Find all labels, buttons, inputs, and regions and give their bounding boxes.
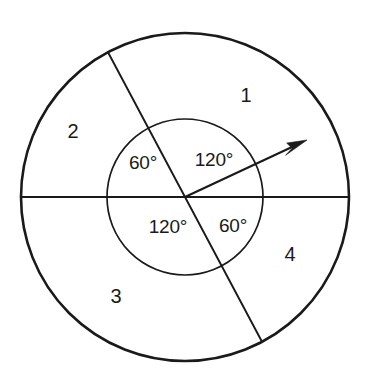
region-label-4: 4 bbox=[284, 243, 295, 265]
angle-label-upper-left: 60° bbox=[129, 152, 157, 173]
angle-label-upper-right: 120° bbox=[195, 149, 234, 170]
circle-angle-diagram: 60° 120° 120° 60° 1 2 3 4 bbox=[0, 0, 371, 386]
region-label-3: 3 bbox=[110, 285, 121, 307]
figure-canvas: 60° 120° 120° 60° 1 2 3 4 bbox=[0, 0, 371, 386]
angle-label-lower-left: 120° bbox=[149, 216, 188, 237]
region-label-1: 1 bbox=[240, 84, 251, 106]
angle-label-lower-right: 60° bbox=[219, 215, 247, 236]
region-label-2: 2 bbox=[67, 120, 78, 142]
